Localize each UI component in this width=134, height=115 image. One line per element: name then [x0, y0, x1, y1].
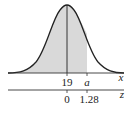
z-marker-label: 1.28: [79, 93, 99, 105]
z-zero-label: 0: [64, 93, 70, 105]
z-axis-label: z: [119, 88, 125, 100]
diagram-svg: 19 a x 0 1.28 z: [0, 0, 134, 115]
x-axis-label: x: [118, 71, 124, 83]
normal-curve-diagram: 19 a x 0 1.28 z: [0, 0, 134, 115]
x-mean-label: 19: [62, 76, 74, 88]
x-marker-label: a: [84, 76, 90, 88]
